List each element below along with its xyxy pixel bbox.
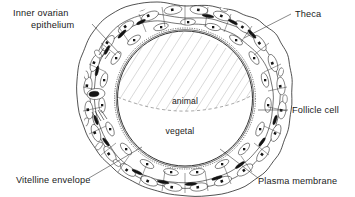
vesicle: [283, 95, 288, 103]
cell-nucleus: [86, 108, 89, 111]
cell-nucleus: [264, 79, 266, 81]
label-inner-ovarian-epithelium-line2: epithelium: [31, 20, 75, 30]
label-theca: Theca: [295, 9, 322, 19]
cell-nucleus: [196, 171, 198, 173]
cell-nucleus: [115, 57, 117, 59]
cell-nucleus: [253, 57, 255, 59]
label-follicle-cell: Follicle cell: [292, 105, 339, 115]
cell-nucleus: [187, 21, 189, 23]
cell-nucleus: [85, 84, 88, 87]
cell-nucleus: [243, 148, 245, 150]
cell-nucleus: [160, 26, 162, 28]
cell-nucleus: [146, 163, 148, 165]
cell-nucleus: [259, 128, 261, 130]
cell-nucleus: [170, 186, 173, 189]
cell-nucleus: [101, 104, 103, 106]
cell-nucleus: [196, 186, 199, 189]
animal-pole-label: animal: [172, 96, 198, 106]
label-vitelline-envelope: Vitelline envelope: [16, 175, 91, 185]
diagram-canvas: animal vegetal Inner ovarian epithelium …: [0, 0, 355, 197]
cell-nucleus: [109, 128, 111, 130]
cell-nucleus: [212, 26, 214, 28]
cell-nucleus: [279, 85, 282, 88]
cell-nucleus: [197, 8, 200, 11]
oocyte-follicle-diagram: animal vegetal Inner ovarian epithelium …: [0, 0, 355, 197]
cell-nucleus: [171, 8, 174, 11]
cell-nucleus: [267, 104, 269, 106]
cell-nucleus: [125, 148, 127, 150]
cell-nucleus: [280, 109, 283, 112]
cell-nucleus: [170, 171, 172, 173]
cell-nucleus: [221, 163, 223, 165]
cell-nucleus: [103, 79, 105, 81]
label-plasma-membrane: Plasma membrane: [258, 176, 337, 186]
vegetal-pole-label: vegetal: [166, 126, 195, 136]
cell-nucleus: [133, 39, 135, 41]
label-inner-ovarian-epithelium-line1: Inner ovarian: [13, 8, 69, 18]
cell-nucleus: [235, 39, 237, 41]
